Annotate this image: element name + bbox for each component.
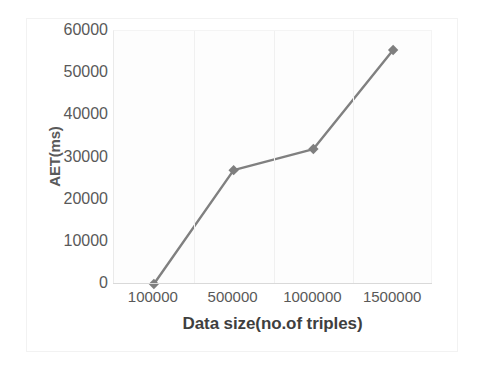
y-axis-tick-labels: 6000050000400003000020000100000 xyxy=(36,30,108,283)
vertical-gridline xyxy=(274,31,275,283)
x-axis-line xyxy=(113,283,432,284)
y-tick-label: 40000 xyxy=(36,106,108,122)
y-tick-label: 10000 xyxy=(36,233,108,249)
x-tick-label: 1500000 xyxy=(344,288,440,306)
vertical-gridline xyxy=(353,31,354,283)
y-tick-label: 20000 xyxy=(36,191,108,207)
x-axis-title: Data size(no.of triples) xyxy=(113,314,432,334)
y-tick-label: 0 xyxy=(36,275,108,291)
plot-area xyxy=(113,30,432,283)
y-tick-label: 60000 xyxy=(36,22,108,38)
chart-figure: AET(ms) 6000050000400003000020000100000 … xyxy=(0,0,478,374)
x-axis-tick-labels: 10000050000010000001500000 xyxy=(113,288,432,310)
vertical-gridline xyxy=(194,31,195,283)
y-tick-label: 50000 xyxy=(36,64,108,80)
y-tick-label: 30000 xyxy=(36,149,108,165)
